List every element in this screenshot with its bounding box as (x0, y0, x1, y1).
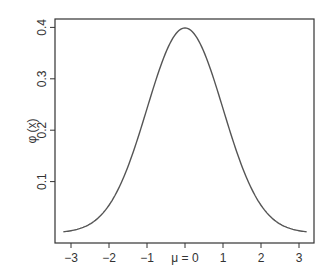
x-tick-label: −1 (140, 251, 154, 265)
y-tick-label: 0.4 (35, 19, 49, 36)
y-axis-title: φ (x) (25, 118, 39, 143)
y-tick-label: 0.1 (35, 173, 49, 190)
x-tick-label: μ = 0 (171, 251, 199, 265)
x-tick-label: 2 (258, 251, 265, 265)
density-curve (63, 28, 306, 232)
x-tick-label: 1 (220, 251, 227, 265)
x-tick-label: 3 (296, 251, 303, 265)
plot-frame (55, 19, 314, 243)
normal-density-chart: −3−2−1μ = 0123 0.10.20.30.4 φ (x) (0, 0, 333, 275)
x-tick-label: −2 (102, 251, 116, 265)
x-axis: −3−2−1μ = 0123 (64, 243, 303, 265)
x-tick-label: −3 (64, 251, 78, 265)
y-axis: 0.10.20.30.4 (35, 19, 55, 190)
y-tick-label: 0.3 (35, 70, 49, 87)
